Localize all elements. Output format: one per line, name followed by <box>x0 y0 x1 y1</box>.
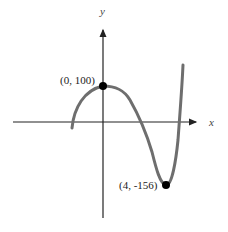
max-point-label: (0, 100) <box>60 74 95 86</box>
function-graph <box>0 0 228 232</box>
min-point-marker <box>162 181 170 189</box>
x-axis-label: x <box>209 116 214 128</box>
y-axis-label: y <box>100 5 105 17</box>
max-point-marker <box>99 82 107 90</box>
min-point-label: (4, -156) <box>119 179 158 191</box>
